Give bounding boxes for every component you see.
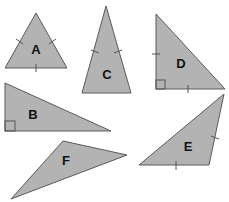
triangle-f: F xyxy=(11,141,127,199)
triangle-c: C xyxy=(82,6,131,93)
triangle-a-shape xyxy=(5,13,67,68)
triangles-diagram: A C D B F E xyxy=(0,0,229,202)
triangle-e-shape xyxy=(139,94,224,165)
triangle-a: A xyxy=(5,13,67,72)
triangle-c-label: C xyxy=(102,67,112,82)
triangle-f-label: F xyxy=(62,153,70,168)
triangle-e-label: E xyxy=(184,139,193,154)
triangle-b-label: B xyxy=(28,107,37,122)
triangle-d-label: D xyxy=(176,56,185,71)
triangle-d-shape xyxy=(156,14,225,89)
triangle-a-label: A xyxy=(31,42,41,57)
triangle-d: D xyxy=(152,14,225,93)
triangle-f-shape xyxy=(11,141,127,199)
triangle-e: E xyxy=(139,94,224,170)
